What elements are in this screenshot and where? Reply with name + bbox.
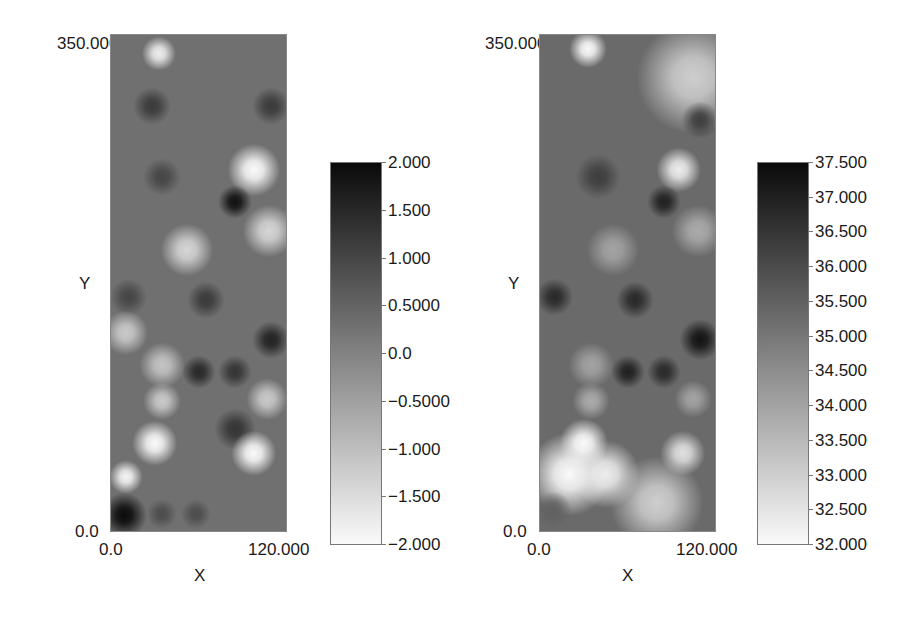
heatmap-feature [133, 87, 171, 125]
colorbar-tick-label: 1.000 [388, 249, 431, 266]
heatmap-feature [231, 430, 277, 476]
right-colorbar [757, 162, 809, 545]
colorbar-tick-mark [808, 370, 813, 371]
heatmap-feature [218, 355, 252, 389]
heatmap-feature [616, 281, 654, 319]
right-x-axis-label: X [622, 567, 633, 584]
colorbar-tick-label: −1.500 [388, 488, 440, 505]
colorbar-tick-mark [381, 353, 386, 354]
heatmap-feature [160, 224, 213, 277]
colorbar-tick-mark [808, 266, 813, 267]
heatmap-feature [143, 382, 181, 420]
colorbar-tick-mark [808, 197, 813, 198]
heatmap-feature [132, 420, 178, 466]
colorbar-tick-mark [808, 336, 813, 337]
colorbar-tick-mark [808, 162, 813, 163]
heatmap-feature [110, 493, 147, 532]
colorbar-tick-mark [381, 544, 386, 545]
heatmap-feature [180, 499, 210, 529]
colorbar-tick-label: −1.000 [388, 440, 440, 457]
colorbar-tick-label: 1.500 [388, 201, 431, 218]
colorbar-tick-label: 36.500 [815, 223, 867, 240]
colorbar-tick-label: 37.000 [815, 188, 867, 205]
colorbar-tick-label: −2.000 [388, 536, 440, 553]
colorbar-tick-mark [808, 475, 813, 476]
left-x-axis-label: X [194, 567, 205, 584]
heatmap-feature [647, 355, 681, 389]
heatmap-feature [187, 281, 225, 319]
right-heatmap-plot-area [539, 34, 716, 532]
colorbar-tick-mark [381, 305, 386, 306]
colorbar-tick-label: 33.500 [815, 431, 867, 448]
left-x-min-label: 0.0 [99, 541, 123, 558]
colorbar-tick-mark [381, 210, 386, 211]
colorbar-tick-label: −0.5000 [388, 392, 450, 409]
heatmap-feature [681, 101, 716, 139]
heatmap-feature [671, 204, 716, 257]
colorbar-tick-mark [808, 405, 813, 406]
colorbar-tick-mark [808, 440, 813, 441]
colorbar-tick-label: 36.000 [815, 258, 867, 275]
heatmap-feature [539, 491, 572, 529]
colorbar-tick-label: 0.5000 [388, 297, 440, 314]
right-y-max-label: 350.000 [485, 35, 546, 52]
heatmap-feature [110, 310, 148, 356]
heatmap-feature [576, 154, 622, 200]
colorbar-tick-label: 34.000 [815, 397, 867, 414]
right-x-max-label: 120.000 [676, 541, 737, 558]
heatmap-feature [246, 378, 287, 420]
colorbar-tick-mark [381, 258, 386, 259]
heatmap-feature [242, 204, 287, 257]
heatmap-feature [610, 355, 644, 389]
left-colorbar [330, 162, 382, 545]
colorbar-tick-mark [381, 496, 386, 497]
colorbar-tick-label: 33.000 [815, 466, 867, 483]
heatmap-feature [147, 499, 177, 529]
heatmap-feature [569, 34, 607, 68]
heatmap-feature [586, 224, 639, 277]
left-y-min-label: 0.0 [75, 523, 99, 540]
colorbar-tick-label: 35.500 [815, 292, 867, 309]
right-y-min-label: 0.0 [503, 523, 527, 540]
colorbar-tick-mark [381, 401, 386, 402]
left-heatmap-plot-area [110, 34, 287, 532]
colorbar-tick-label: 34.500 [815, 362, 867, 379]
heatmap-feature [252, 87, 287, 125]
colorbar-tick-label: 32.000 [815, 536, 867, 553]
heatmap-feature [539, 278, 574, 316]
heatmap-feature [142, 36, 176, 70]
colorbar-tick-mark [381, 449, 386, 450]
right-y-axis-label: Y [508, 275, 519, 292]
heatmap-feature [181, 355, 215, 389]
colorbar-tick-label: 0.0 [388, 345, 412, 362]
colorbar-tick-label: 32.500 [815, 501, 867, 518]
heatmap-feature [572, 382, 610, 420]
heatmap-feature [674, 380, 712, 418]
heatmap-feature [110, 460, 143, 494]
colorbar-tick-mark [808, 231, 813, 232]
heatmap-feature [143, 158, 181, 196]
colorbar-tick-label: 37.500 [815, 154, 867, 171]
right-x-min-label: 0.0 [527, 541, 551, 558]
colorbar-tick-mark [808, 544, 813, 545]
heatmap-feature [252, 321, 287, 359]
colorbar-tick-label: 35.000 [815, 327, 867, 344]
heatmap-feature [680, 319, 716, 361]
left-x-max-label: 120.000 [248, 541, 309, 558]
left-y-axis-label: Y [79, 275, 90, 292]
colorbar-tick-mark [808, 301, 813, 302]
colorbar-tick-label: 2.000 [388, 154, 431, 171]
colorbar-tick-mark [808, 509, 813, 510]
colorbar-tick-mark [381, 162, 386, 163]
